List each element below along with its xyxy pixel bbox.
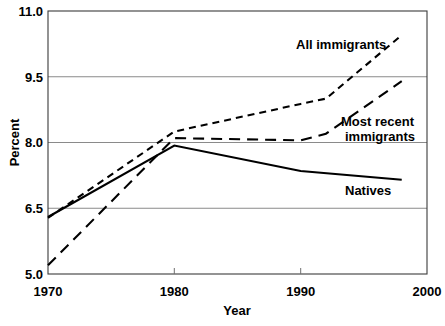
y-tick-label-6-5: 6.5 (25, 201, 43, 216)
series-label-natives: Natives (345, 183, 391, 198)
y-tick-label-5-0: 5.0 (25, 267, 43, 282)
y-tick-label-9-5: 9.5 (25, 70, 43, 85)
x-axis-title: Year (223, 303, 250, 318)
series-label-all-immigrants: All immigrants (296, 37, 386, 52)
y-tick-label-8-0: 8.0 (25, 135, 43, 150)
chart-canvas: 11.0 9.5 8.0 6.5 5.0 1970 1980 1990 2000… (0, 0, 445, 326)
line-chart: 11.0 9.5 8.0 6.5 5.0 1970 1980 1990 2000… (0, 0, 445, 326)
x-tick-label-1970: 1970 (34, 284, 63, 299)
series-label-most-recent-immigrants-line1: Most recent (341, 114, 415, 129)
y-tick-label-11-0: 11.0 (18, 4, 43, 19)
series-label-most-recent-immigrants-line2: immigrants (345, 129, 415, 144)
x-tick-label-1980: 1980 (160, 284, 189, 299)
y-axis-title: Percent (7, 118, 22, 166)
x-tick-label-2000: 2000 (413, 284, 442, 299)
x-tick-label-1990: 1990 (286, 284, 315, 299)
